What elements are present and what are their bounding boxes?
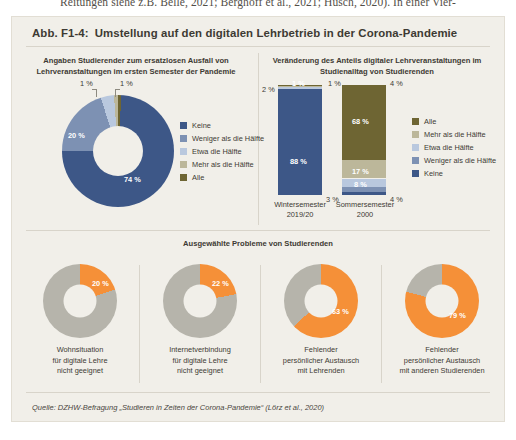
chart2-winter-weniger: 88 % bbox=[290, 157, 307, 166]
problem-value-3: 63 % bbox=[332, 307, 349, 316]
legend-label-weniger: Weniger als die Hälfte bbox=[192, 134, 264, 143]
legend-label-keine: Keine bbox=[424, 169, 443, 178]
chart2-winter-mehr: 1 % bbox=[328, 79, 341, 88]
legend-swatch-keine bbox=[180, 122, 187, 129]
legend-swatch-alle bbox=[180, 174, 187, 181]
caption-line: für digitale Lehre bbox=[145, 356, 255, 367]
chart1-value-etwa: 1 % bbox=[80, 79, 93, 88]
chart1-leader-etwa bbox=[96, 89, 97, 97]
chart1-leader-etwa-h bbox=[92, 89, 97, 90]
caption-line: Wohnsituation bbox=[26, 345, 134, 356]
problem-donut-1 bbox=[43, 264, 117, 338]
problem-donut-2 bbox=[163, 264, 237, 338]
rule-above-source bbox=[26, 392, 490, 393]
chart2-bar-sommer bbox=[342, 85, 386, 195]
running-body-text: Reitungen siehe z.B. Belle, 2021; Bergho… bbox=[0, 0, 516, 10]
chart1-title: Angaben Studierender zum ersatzlosen Aus… bbox=[24, 55, 248, 77]
problem-donut-4 bbox=[405, 264, 479, 338]
problem-donut-1-hole bbox=[64, 285, 97, 318]
chart3-title: Ausgewählte Probleme von Studierenden bbox=[12, 238, 504, 249]
chart2-winter-etwa: 2 % bbox=[262, 85, 275, 94]
caption-line: persönlicher Austausch bbox=[266, 356, 376, 367]
legend-item: Mehr als die Hälfte bbox=[180, 158, 264, 171]
legend-label-weniger: Weniger als die Hälfte bbox=[424, 156, 496, 165]
chart2-winter-alle: 1 % bbox=[292, 79, 305, 88]
caption-line: Fehlender bbox=[383, 345, 501, 356]
legend-swatch-weniger bbox=[180, 135, 187, 142]
legend-item: Weniger als die Hälfte bbox=[412, 154, 496, 167]
chart1-value-mehr: 1 % bbox=[120, 79, 133, 88]
rule-problems-3 bbox=[381, 265, 382, 383]
legend-item: Alle bbox=[180, 171, 264, 184]
axis-sommer-line1: Sommersemester bbox=[326, 200, 404, 210]
chart2-sommer-mehr: 17 % bbox=[352, 167, 369, 176]
figure-title: Abb. F1-4:Umstellung auf den digitalen L… bbox=[32, 27, 494, 39]
legend-item: Weniger als die Hälfte bbox=[180, 132, 264, 145]
chart1-donut bbox=[62, 95, 174, 207]
caption-line: Internetverbindung bbox=[145, 345, 255, 356]
legend-swatch-keine bbox=[412, 170, 419, 177]
legend-label-mehr: Mehr als die Hälfte bbox=[192, 160, 254, 169]
legend-item: Mehr als die Hälfte bbox=[412, 128, 496, 141]
figure-number: Abb. F1-4: bbox=[32, 27, 89, 39]
legend-item: Etwa die Hälfte bbox=[180, 145, 264, 158]
seg-sommer-keine bbox=[342, 192, 386, 195]
caption-line: Fehlender bbox=[266, 345, 376, 356]
legend-item: Etwa die Hälfte bbox=[412, 141, 496, 154]
problem-value-2: 22 % bbox=[212, 279, 229, 288]
problem-caption-4: Fehlender persönlicher Austausch mit and… bbox=[383, 345, 501, 377]
legend-label-alle: Alle bbox=[192, 173, 204, 182]
chart2-legend: Alle Mehr als die Hälfte Etwa die Hälfte… bbox=[412, 115, 496, 180]
seg-winter-weniger bbox=[278, 89, 322, 186]
caption-line: mit Lehrenden bbox=[266, 366, 376, 377]
legend-swatch-mehr bbox=[412, 131, 419, 138]
rule-problems-1 bbox=[139, 265, 140, 383]
chart2-title: Veränderung des Anteils digitaler Lehrve… bbox=[264, 55, 490, 77]
legend-swatch-alle bbox=[412, 118, 419, 125]
rule-problems-2 bbox=[260, 265, 261, 383]
figure-title-text: Umstellung auf den digitalen Lehrbetrieb… bbox=[95, 27, 458, 39]
chart1-legend: Keine Weniger als die Hälfte Etwa die Hä… bbox=[180, 119, 264, 184]
chart2-sommer-alle: 68 % bbox=[352, 117, 369, 126]
caption-line: mit anderen Studierenden bbox=[383, 366, 501, 377]
problem-value-4: 79 % bbox=[449, 311, 466, 320]
legend-label-alle: Alle bbox=[424, 117, 436, 126]
chart1-value-keine: 74 % bbox=[124, 175, 141, 184]
chart2-sommer-etwa: 8 % bbox=[354, 180, 367, 189]
legend-swatch-weniger bbox=[412, 157, 419, 164]
caption-line: nicht geeignet bbox=[26, 366, 134, 377]
legend-item: Keine bbox=[412, 167, 496, 180]
legend-swatch-etwa bbox=[412, 144, 419, 151]
caption-line: nicht geeignet bbox=[145, 366, 255, 377]
seg-winter-keine bbox=[278, 186, 322, 195]
legend-item: Alle bbox=[412, 115, 496, 128]
caption-line: für digitale Lehre bbox=[26, 356, 134, 367]
figure-panel: Abb. F1-4:Umstellung auf den digitalen L… bbox=[12, 17, 504, 421]
chart1-value-weniger: 20 % bbox=[68, 131, 85, 140]
rule-above-problems bbox=[26, 230, 490, 231]
chart2-sommer-weniger: 4 % bbox=[390, 79, 403, 88]
problem-caption-3: Fehlender persönlicher Austausch mit Leh… bbox=[266, 345, 376, 377]
legend-label-mehr: Mehr als die Hälfte bbox=[424, 130, 486, 139]
legend-swatch-mehr bbox=[180, 161, 187, 168]
legend-label-etwa: Etwa die Hälfte bbox=[192, 147, 242, 156]
chart2-bar-winter bbox=[278, 85, 322, 195]
chart2-axis-sommer: Sommersemester 2000 bbox=[326, 200, 404, 220]
axis-sommer-line2: 2000 bbox=[326, 210, 404, 220]
problem-value-1: 20 % bbox=[92, 279, 109, 288]
legend-item: Keine bbox=[180, 119, 264, 132]
problem-donut-2-hole bbox=[184, 285, 217, 318]
problem-caption-2: Internetverbindung für digitale Lehre ni… bbox=[145, 345, 255, 377]
legend-label-etwa: Etwa die Hälfte bbox=[424, 143, 474, 152]
chart1-donut-hole bbox=[93, 126, 143, 176]
problem-caption-1: Wohnsituation für digitale Lehre nicht g… bbox=[26, 345, 134, 377]
chart1-leader-mehr bbox=[115, 89, 116, 97]
caption-line: persönlicher Austausch bbox=[383, 356, 501, 367]
problem-donut-3 bbox=[284, 264, 358, 338]
rule-under-title bbox=[26, 46, 490, 47]
source-note: Quelle: DZHW-Befragung „Studieren in Zei… bbox=[32, 403, 324, 412]
legend-swatch-etwa bbox=[180, 148, 187, 155]
legend-label-keine: Keine bbox=[192, 121, 211, 130]
chart1-leader-mehr-h bbox=[115, 89, 120, 90]
